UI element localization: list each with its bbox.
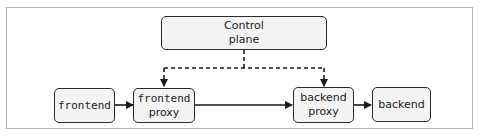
node-frontend-proxy-line2: proxy bbox=[149, 106, 180, 120]
node-backend-proxy: backend proxy bbox=[293, 87, 354, 123]
node-control-plane-line2: plane bbox=[229, 33, 260, 47]
node-backend-proxy-line1: backend bbox=[300, 91, 346, 105]
node-frontend-proxy: frontend proxy bbox=[133, 88, 195, 123]
node-backend: backend bbox=[372, 87, 431, 122]
node-control-plane-line1: Control bbox=[224, 19, 264, 33]
node-backend-proxy-line2: proxy bbox=[308, 105, 339, 119]
node-control-plane: Control plane bbox=[161, 16, 327, 50]
node-backend-label: backend bbox=[378, 98, 424, 112]
node-frontend-proxy-line1: frontend bbox=[138, 92, 191, 106]
node-frontend-label: frontend bbox=[58, 99, 111, 113]
node-frontend: frontend bbox=[54, 88, 115, 123]
